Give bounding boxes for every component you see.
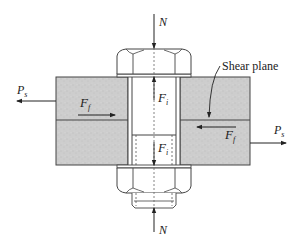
right-plate bbox=[180, 77, 250, 165]
bolted-joint-diagram: N N Fi Fi Ps Ps Ff Ff Shear pl bbox=[0, 0, 301, 246]
applied-load-right-label: Ps bbox=[273, 123, 284, 139]
left-plate bbox=[56, 77, 128, 165]
normal-force-bottom-label: N bbox=[158, 223, 168, 237]
normal-force-top-label: N bbox=[158, 15, 168, 29]
shear-plane-label: Shear plane bbox=[222, 59, 278, 73]
applied-load-left-label: Ps bbox=[16, 83, 27, 99]
